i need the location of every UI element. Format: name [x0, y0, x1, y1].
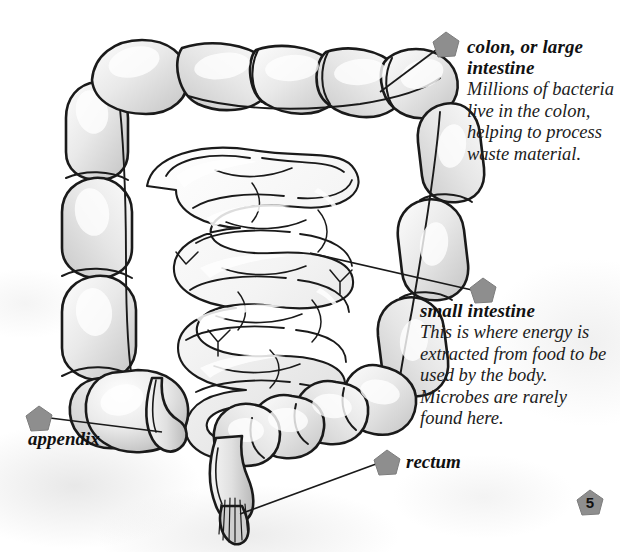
- label-rectum: rectum: [406, 451, 461, 473]
- callout-small-intestine: small intestine This is where energy is …: [420, 300, 612, 430]
- pentagon-marker-rectum: [374, 450, 400, 475]
- page-number: 5: [577, 489, 603, 515]
- callout-colon-body: Millions of bacteria live in the colon, …: [467, 79, 617, 165]
- leader-line-rectum: [240, 464, 376, 514]
- callout-small-intestine-body: This is where energy is extracted from f…: [420, 322, 612, 430]
- callout-colon-title: colon, or large intestine: [467, 36, 617, 78]
- callout-small-intestine-title: small intestine: [420, 300, 612, 321]
- pentagon-marker-colon: [433, 32, 459, 57]
- page-canvas: colon, or large intestine Millions of ba…: [0, 0, 620, 552]
- label-appendix: appendix: [28, 428, 100, 450]
- callout-colon: colon, or large intestine Millions of ba…: [467, 36, 617, 165]
